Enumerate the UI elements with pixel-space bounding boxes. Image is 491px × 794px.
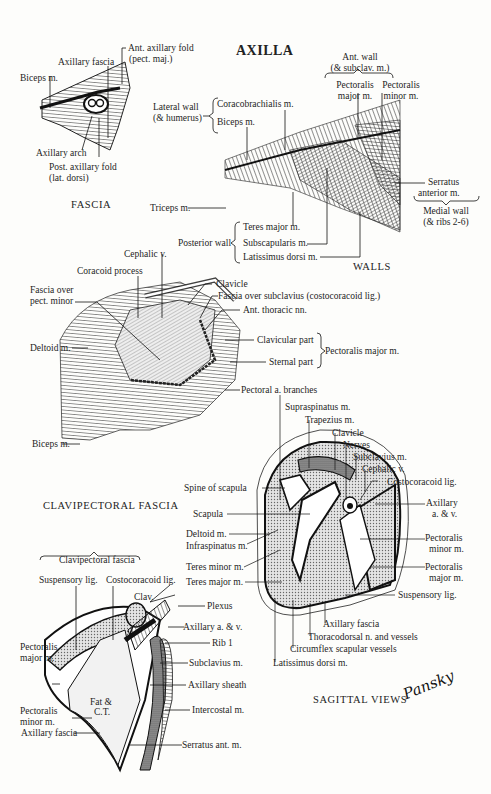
label-fat: Fat & <box>90 697 112 708</box>
label-circumflex-scapular: Circumflex scapular vessels <box>290 644 397 655</box>
caption-walls: WALLS <box>353 261 391 272</box>
label-axillary-av: Axillary a. & v. <box>183 622 242 633</box>
label-coracobrachialis: Coracobrachialis m. <box>217 99 294 110</box>
label-serratus-ant: Serratus ant. m. <box>182 740 242 751</box>
label-supraspinatus: Supraspinatus m. <box>285 402 350 413</box>
label-subclavius: Subclavius m. <box>353 452 407 463</box>
caption-clavipectoral-fascia: CLAVIPECTORAL FASCIA <box>43 500 179 511</box>
label-axillary-fascia: Axillary fascia <box>58 57 114 68</box>
label-ant-wall-sub: (& subclav. m.) <box>322 63 398 74</box>
label-spine-of-scapula: Spine of scapula <box>184 483 247 494</box>
label-axillary-fascia: Axillary fascia <box>21 728 77 739</box>
label-fascia-over-pect-minor-sub: pect. minor <box>30 296 73 307</box>
label-costocoracoid-lig: Costocoracoid lig. <box>387 477 457 488</box>
label-teres-minor: Teres minor m. <box>186 562 244 573</box>
label-latissimus-dorsi: Latissimus dorsi m. <box>243 252 318 263</box>
label-medial-wall-sub: (& ribs 2-6) <box>412 217 480 228</box>
label-biceps: Biceps m. <box>217 117 255 128</box>
label-teres-major: Teres major m. <box>243 222 300 233</box>
label-lateral-wall-sub: (& humerus) <box>153 113 202 124</box>
label-pectoralis-major: Pectoralis major m. <box>325 346 399 357</box>
label-post-axillary-fold-sub: (lat. dorsi) <box>49 173 89 184</box>
label-axillary-av-sub: a. & v. <box>432 509 457 520</box>
label-posterior-wall: Posterior wall <box>178 238 231 249</box>
label-pectoralis-major-sub: major m. <box>20 653 54 664</box>
clavipectoral-drawing <box>60 254 325 444</box>
label-pectoralis-minor: Pectoralis <box>376 80 426 91</box>
label-subclavius: Subclavius m. <box>189 658 243 669</box>
label-sternal-part: Sternal part <box>269 357 313 368</box>
label-suspensory-lig: Suspensory lig. <box>39 575 98 586</box>
label-axillary-arch: Axillary arch <box>36 148 86 159</box>
label-medial-wall: Medial wall <box>412 206 480 217</box>
label-pectoralis-minor-sub: minor m. <box>20 717 55 728</box>
label-deltoid: Deltoid m. <box>30 343 71 354</box>
label-plexus: Plexus <box>207 601 232 612</box>
page-title: AXILLA <box>236 43 293 59</box>
label-ant-axillary-fold: Ant. axillary fold <box>128 43 194 54</box>
label-ant-wall: Ant. wall <box>332 52 388 63</box>
label-pectoralis-major: Pectoralis <box>330 80 380 91</box>
label-trapezius: Trapezius m. <box>305 415 354 426</box>
label-axillary-sheath: Axillary sheath <box>188 680 246 691</box>
label-latissimus-dorsi: Latissimus dorsi m. <box>273 658 348 669</box>
label-fascia-over-subclavius: Fascia over subclavius (costocoracoid li… <box>218 291 380 302</box>
label-cephalic-vein: Cephalic v. <box>362 464 405 475</box>
label-subscapularis: Subscapularis m. <box>243 238 308 249</box>
label-lateral-wall: Lateral wall <box>153 102 199 113</box>
label-clavicle: Clavicle <box>216 279 248 290</box>
label-rib-1: Rib 1 <box>212 638 233 649</box>
label-infraspinatus: Infraspinatus m. <box>186 541 248 552</box>
label-axillary-av: Axillary <box>426 498 458 509</box>
label-axillary-fascia: Axillary fascia <box>323 619 379 630</box>
caption-sagittal-views: SAGITTAL VIEWS <box>313 694 407 705</box>
label-scapula: Scapula <box>193 509 223 520</box>
label-ant-axillary-fold-sub: (pect. maj.) <box>129 54 173 65</box>
label-thoracodorsal: Thoracodorsal n. and vessels <box>308 632 418 643</box>
label-serratus-anterior: Serratus <box>428 177 459 188</box>
label-ct: C.T. <box>94 707 110 718</box>
label-pectoralis-major-sub: major m. <box>429 573 463 584</box>
label-pectoralis-minor-sub: minor m. <box>376 91 426 102</box>
label-biceps: Biceps m. <box>32 439 70 450</box>
label-triceps: Triceps m. <box>150 203 190 214</box>
label-clavicle: Clavicle <box>332 428 364 439</box>
label-post-axillary-fold: Post. axillary fold <box>49 162 117 173</box>
label-pectoralis-major: Pectoralis <box>425 562 462 573</box>
caption-fascia: FASCIA <box>71 199 111 210</box>
label-clavipectoral-fascia: Clavipectoral fascia <box>59 555 135 566</box>
label-pectoralis-major-sub: major m. <box>330 91 380 102</box>
label-biceps: Biceps m. <box>20 73 58 84</box>
label-coracoid-process: Coracoid process <box>77 266 143 277</box>
label-fascia-over-pect-minor: Fascia over <box>30 285 74 296</box>
label-clavicular-part: Clavicular part <box>257 335 314 346</box>
label-cephalic-vein: Cephalic v. <box>124 249 167 260</box>
label-pectoralis-minor: Pectoralis <box>425 533 462 544</box>
label-pectoral-a-branches: Pectoral a. branches <box>241 385 317 396</box>
label-intercostal: Intercostal m. <box>192 705 244 716</box>
label-pectoralis-major: Pectoralis <box>20 642 57 653</box>
label-nerves: Nerves <box>343 440 370 451</box>
label-pectoralis-minor: Pectoralis <box>20 706 57 717</box>
label-ant-thoracic-nn: Ant. thoracic nn. <box>243 305 307 316</box>
label-serratus-anterior-sub: anterior m. <box>418 188 460 199</box>
label-clav: Clav. <box>134 592 154 603</box>
label-teres-major: Teres major m. <box>186 577 243 588</box>
label-suspensory-lig: Suspensory lig. <box>398 590 457 601</box>
label-pectoralis-minor-sub: minor m. <box>429 544 464 555</box>
label-deltoid: Deltoid m. <box>186 529 227 540</box>
label-costocoracoid-lig: Costocoracoid lig. <box>106 575 176 586</box>
